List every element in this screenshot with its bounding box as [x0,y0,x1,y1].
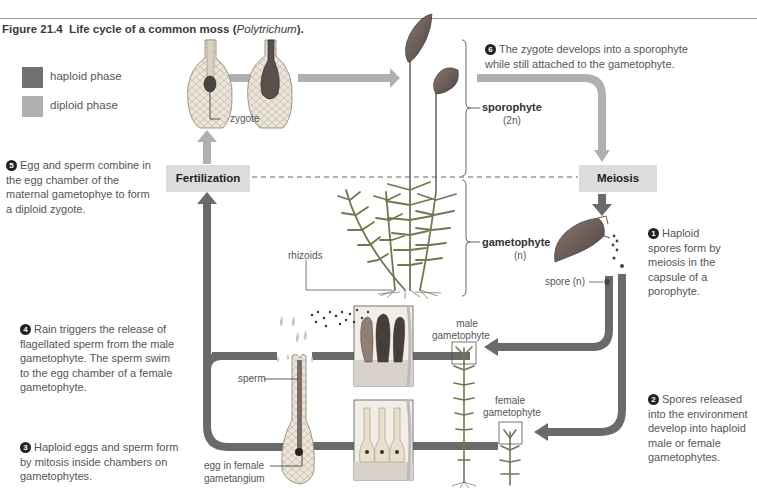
life-cycle-diagram [0,0,757,498]
step-1: 1Haploid spores form by meiosis in the c… [648,226,734,299]
egg-label-2: gametangium [204,473,265,484]
arrow-to-zygote [197,130,217,142]
step-4: 4Rain triggers the release of flagellate… [20,322,180,395]
archegonium-zygote [188,40,233,128]
gametophyte-ploidy: (n) [514,250,526,261]
arrow-to-female [534,423,548,441]
arrow-from-meiosis [592,204,612,216]
arrow-to-sporophyte [390,68,400,88]
moss-plant [338,14,458,299]
rhizoids-label: rhizoids [288,250,322,261]
male-gametophyte-label-2: gametophyte [432,330,490,341]
step-3: 3Haploid eggs and sperm form by mitosis … [20,440,180,484]
gametophyte-brace [462,180,470,296]
step-5: 5Egg and sperm combine in the egg chambe… [6,158,156,216]
open-capsule [554,216,624,285]
meiosis-box: Meiosis [579,165,657,192]
sporophyte-ploidy: (2n) [503,115,521,126]
gametophyte-label: gametophyte [482,236,550,248]
sperm-label: sperm [238,373,266,384]
arrow-to-meiosis [594,150,610,162]
step-2: 2Spores released into the environment de… [648,392,752,465]
arrow-to-fertilization [197,192,217,204]
female-gametophyte-label-1: female [495,395,525,406]
archegonia-inset [354,400,413,480]
female-gametophyte-plant [500,430,520,485]
male-gametophyte-label-1: male [452,318,482,329]
fertilization-box: Fertilization [166,165,250,192]
female-gametophyte-label-2: gametophyte [483,407,541,418]
egg-label-1: egg in female [204,460,264,471]
sporophyte-brace [462,40,470,176]
spore-label: spore (n) [545,276,585,287]
zygote-label: zygote [230,113,259,124]
female-gametangium [264,354,314,484]
male-gametophyte-plant [452,347,476,488]
step-6: 6The zygote develops into a sporophyte w… [485,42,695,71]
sporophyte-label: sporophyte [482,101,542,113]
